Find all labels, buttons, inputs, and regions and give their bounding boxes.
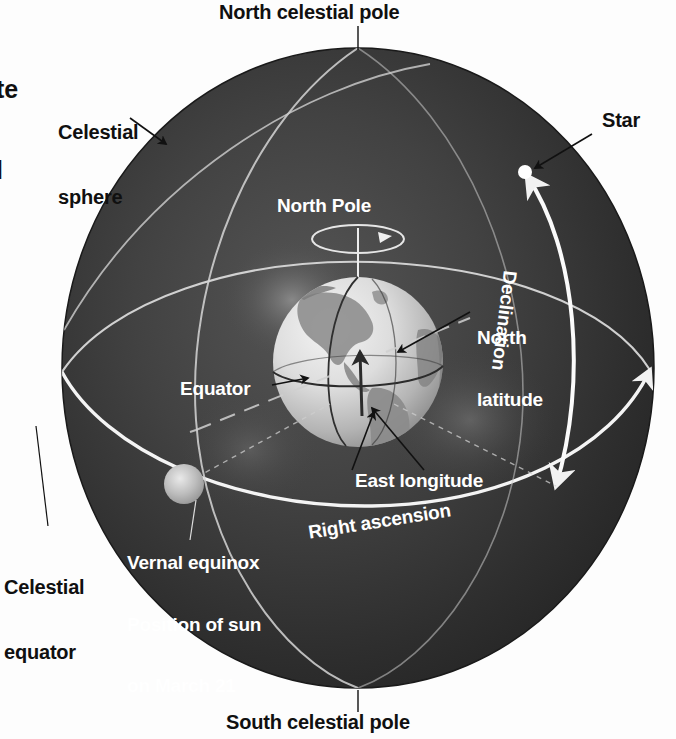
label-celestial-equator: Celestial equator [4,534,84,707]
clipped-label-top-left: te l [0,22,23,238]
label-east-longitude: East longitude [355,471,483,492]
label-star: Star [602,110,640,132]
label-vernal-equinox: Vernal equinox Position of sun on March … [127,512,261,738]
north-latitude-arrow [360,352,362,416]
label-north-celestial-pole: North celestial pole [219,2,400,24]
label-equator: Equator [180,379,250,400]
label-south-celestial-pole: South celestial pole [226,712,410,734]
star-marker [518,165,532,179]
vernal-equinox-sun-marker [164,464,204,504]
label-celestial-sphere: Celestial sphere [58,79,138,252]
label-north-pole: North Pole [277,196,371,217]
celestial-sphere-figure: te l North celestial pole Celestial sphe… [0,0,676,739]
